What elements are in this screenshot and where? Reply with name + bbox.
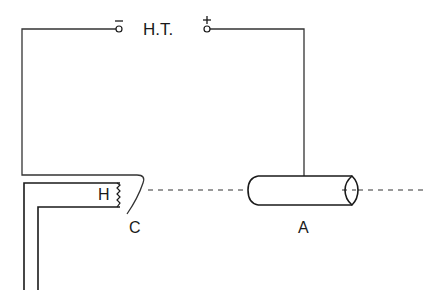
anode-cylinder xyxy=(248,176,358,205)
cathode-ray-diagram: H.T. H C A xyxy=(0,0,428,294)
cathode-label: C xyxy=(129,219,141,236)
heater-coil-icon xyxy=(117,183,120,207)
negative-terminal-icon xyxy=(116,26,122,32)
ht-label: H.T. xyxy=(143,20,173,39)
positive-terminal-icon xyxy=(204,26,210,32)
negative-wire xyxy=(22,29,144,214)
plus-sign-icon xyxy=(203,16,211,24)
positive-wire xyxy=(210,29,304,176)
heater-label: H xyxy=(98,186,110,203)
anode-label: A xyxy=(298,219,309,236)
